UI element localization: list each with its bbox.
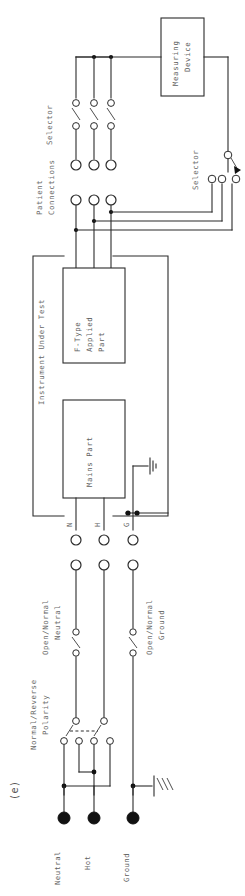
mains-part-block: Mains Part — [63, 400, 125, 498]
normal-reverse-polarity-label-line2: Polarity — [41, 695, 50, 735]
open-normal-neutral-blade[interactable] — [72, 637, 80, 648]
open-normal-neutral-label-line2: Neutral — [53, 605, 62, 640]
selector-top-lower-contact-2[interactable] — [91, 123, 98, 130]
patient-connections-group: Patient Connections — [35, 159, 232, 268]
selector-top-blade-1[interactable] — [72, 108, 80, 120]
open-normal-ground-label-line1: Open/Normal — [145, 599, 154, 655]
f-type-applied-part-label-line3: Part — [97, 332, 106, 352]
mains-earth-group — [133, 458, 156, 513]
open-normal-neutral-label-line1: Open/Normal — [41, 599, 50, 655]
supply-terminal-group: Neutral Hot Ground — [53, 786, 139, 885]
iut-plug-pin-neutral[interactable] — [71, 535, 81, 545]
receptacle-socket-ground[interactable] — [128, 560, 138, 570]
open-normal-ground-switch[interactable]: Open/Normal Ground — [129, 570, 166, 795]
selector-right-group[interactable]: Selector — [191, 150, 241, 190]
iut-terminal-label-hot: H — [93, 522, 102, 527]
selector-top-upper-contact-3[interactable] — [108, 100, 115, 107]
selector-top-lower-contact-1[interactable] — [73, 123, 80, 130]
selector-right-contact-3[interactable] — [232, 175, 240, 183]
patient-connection-terminal-2[interactable] — [89, 195, 99, 205]
open-normal-ground-upper-contact[interactable] — [130, 629, 136, 635]
open-normal-ground-label-line2: Ground — [157, 610, 166, 640]
measuring-device-label-line1: Measuring — [171, 41, 180, 86]
selector-right-contact-2[interactable] — [218, 175, 226, 183]
junction-dot-ground-1 — [125, 510, 130, 515]
supply-terminal-label-hot: Hot — [83, 856, 92, 870]
polarity-lower-contact-3[interactable] — [91, 738, 98, 745]
supply-terminal-label-neutral: Neutral — [53, 851, 62, 885]
mains-part-label: Mains Part — [85, 437, 94, 488]
selector-top-lower-contact-3[interactable] — [108, 123, 115, 130]
patient-connection-terminal-3[interactable] — [106, 195, 116, 205]
receptacle-socket-hot[interactable] — [99, 560, 109, 570]
iut-terminal-label-ground: G — [122, 522, 131, 527]
selector-top-upper-contact-1[interactable] — [73, 100, 80, 107]
selector-top-upper-contact-2[interactable] — [91, 100, 98, 107]
supply-terminal-ground[interactable] — [127, 812, 139, 824]
supply-earth-icon-hatch2 — [162, 778, 168, 790]
iut-terminal-label-neutral: N — [65, 522, 74, 527]
selector-right-common-pole[interactable] — [224, 151, 232, 159]
patient-connections-label-line1: Patient — [35, 180, 44, 215]
f-type-applied-part-block: F-Type Applied Part — [63, 268, 125, 363]
circuit-diagram: Measuring Device Selector — [0, 0, 245, 896]
normal-reverse-polarity-label-line1: Normal/Reverse — [29, 679, 38, 750]
iut-plug-pin-ground[interactable] — [128, 535, 138, 545]
receptacle-socket-neutral[interactable] — [71, 560, 81, 570]
selector-top-group[interactable]: Selector — [45, 55, 116, 170]
supply-terminal-neutral[interactable] — [58, 812, 70, 824]
f-type-applied-part-label-line1: F-Type — [73, 322, 82, 352]
supply-earth-group — [131, 776, 173, 796]
iut-plug-pin-hot[interactable] — [99, 535, 109, 545]
supply-earth-icon-hatch1 — [157, 778, 163, 790]
selector-top-terminal-1[interactable] — [71, 160, 81, 170]
junction-dot-ground-2 — [134, 510, 139, 515]
iut-terminal-group: N H G — [65, 498, 168, 570]
mains-part-box — [63, 400, 125, 498]
selector-top-label: Selector — [45, 105, 54, 145]
instrument-under-test-label: Instrument Under Test — [37, 299, 46, 405]
measuring-device-label-line2: Device — [183, 42, 192, 72]
selector-top-terminal-3[interactable] — [106, 160, 116, 170]
supply-earth-icon-hatch3 — [167, 778, 173, 790]
open-normal-ground-blade[interactable] — [129, 637, 137, 648]
selector-right-label: Selector — [191, 150, 200, 190]
open-normal-neutral-upper-contact[interactable] — [73, 629, 79, 635]
supply-terminal-label-ground: Ground — [122, 853, 131, 882]
selector-top-blade-2[interactable] — [90, 108, 98, 120]
selector-right-contact-1[interactable] — [208, 175, 216, 183]
selector-right-blade-tip — [234, 166, 241, 174]
polarity-lower-contact-4[interactable] — [107, 738, 114, 745]
open-normal-ground-lower-contact[interactable] — [130, 650, 136, 656]
polarity-lower-contact-2[interactable] — [76, 738, 83, 745]
supply-terminal-hot[interactable] — [88, 812, 100, 824]
polarity-lower-contact-1[interactable] — [61, 738, 68, 745]
selector-top-blade-3[interactable] — [107, 108, 115, 120]
figure-caption: (e) — [9, 780, 20, 800]
normal-reverse-polarity-switch[interactable]: Normal/Reverse Polarity — [29, 679, 113, 795]
measuring-device-block: Measuring Device — [161, 18, 204, 96]
junction-dot-polarity-a — [92, 770, 97, 775]
patient-connection-terminal-1[interactable] — [71, 195, 81, 205]
measuring-device-bus — [76, 57, 228, 172]
polarity-upper-pole-hot[interactable] — [101, 718, 108, 725]
open-normal-neutral-lower-contact[interactable] — [73, 650, 79, 656]
polarity-upper-pole-neutral[interactable] — [73, 718, 80, 725]
f-type-applied-part-label-line2: Applied — [85, 317, 94, 352]
selector-top-terminal-2[interactable] — [89, 160, 99, 170]
figure-container: Measuring Device Selector — [0, 0, 245, 896]
patient-connections-label-line2: Connections — [47, 159, 56, 215]
